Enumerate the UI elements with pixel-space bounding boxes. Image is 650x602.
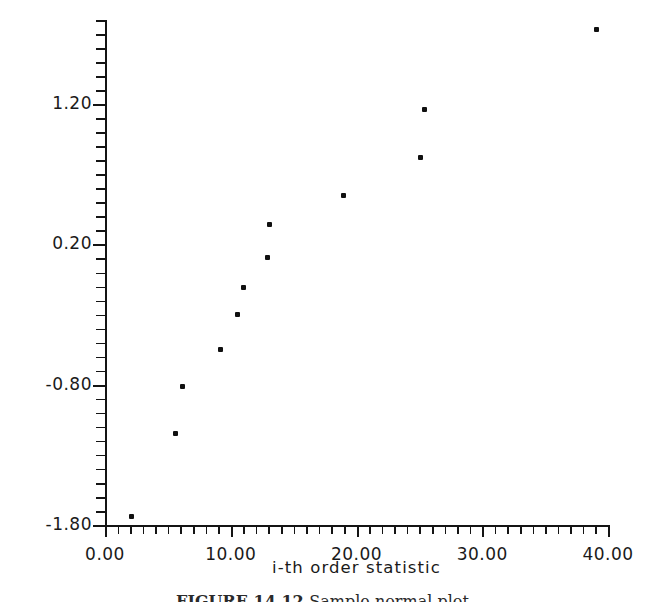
y-axis-tick-label: -0.80 xyxy=(6,374,92,394)
x-axis-minor-tick xyxy=(520,525,522,534)
x-axis-minor-tick xyxy=(168,525,170,534)
y-axis-minor-tick xyxy=(96,343,105,345)
figure-caption: FIGURE 14.12 Sample normal plot. xyxy=(0,592,650,602)
x-axis-minor-tick xyxy=(206,525,208,534)
x-axis-minor-tick xyxy=(495,525,497,534)
x-axis-major-tick xyxy=(482,525,484,537)
y-axis-minor-tick xyxy=(96,34,105,36)
scatter-point xyxy=(341,193,346,198)
scatter-point xyxy=(594,27,599,32)
y-axis-minor-tick xyxy=(96,511,105,513)
x-axis-minor-tick xyxy=(306,525,308,534)
x-axis-minor-tick xyxy=(281,525,283,534)
y-axis-minor-tick xyxy=(96,329,105,331)
y-axis-major-tick xyxy=(93,104,105,106)
y-axis-minor-tick xyxy=(96,160,105,162)
x-axis-minor-tick xyxy=(570,525,572,534)
x-axis-minor-tick xyxy=(193,525,195,534)
x-axis-minor-tick xyxy=(583,525,585,534)
y-axis-minor-tick xyxy=(96,399,105,401)
x-axis-minor-tick xyxy=(595,525,597,534)
y-axis-minor-tick xyxy=(96,132,105,134)
y-axis-tick-label: 0.20 xyxy=(6,233,92,253)
x-axis-minor-tick xyxy=(507,525,509,534)
y-axis-minor-tick xyxy=(96,427,105,429)
x-axis-minor-tick xyxy=(319,525,321,534)
y-axis-minor-tick xyxy=(96,287,105,289)
y-axis-minor-tick xyxy=(96,483,105,485)
y-axis-minor-tick xyxy=(96,216,105,218)
y-axis-minor-tick xyxy=(96,118,105,120)
y-axis-tick-label: -1.80 xyxy=(6,514,92,534)
y-axis-minor-tick xyxy=(96,174,105,176)
y-axis-minor-tick xyxy=(96,413,105,415)
y-axis-minor-tick xyxy=(96,258,105,260)
x-axis-minor-tick xyxy=(256,525,258,534)
x-axis-minor-tick xyxy=(118,525,120,534)
y-axis-minor-tick xyxy=(96,188,105,190)
x-axis-minor-tick xyxy=(407,525,409,534)
x-axis-minor-tick xyxy=(243,525,245,534)
scatter-point xyxy=(173,431,178,436)
y-axis-minor-tick xyxy=(96,441,105,443)
y-axis-minor-tick xyxy=(96,62,105,64)
x-axis-minor-tick xyxy=(533,525,535,534)
x-axis-minor-tick xyxy=(419,525,421,534)
figure-caption-text: Sample normal plot. xyxy=(309,592,474,602)
y-axis-minor-tick xyxy=(96,20,105,22)
x-axis-minor-tick xyxy=(130,525,132,534)
y-axis-minor-tick xyxy=(96,230,105,232)
y-axis-minor-tick xyxy=(96,146,105,148)
scatter-point xyxy=(129,514,134,519)
x-axis-minor-tick xyxy=(558,525,560,534)
figure-caption-label: FIGURE 14.12 xyxy=(176,592,304,602)
y-axis-major-tick xyxy=(93,385,105,387)
y-axis-minor-tick xyxy=(96,455,105,457)
x-axis-title: i-th order statistic xyxy=(105,558,608,577)
y-axis-minor-tick xyxy=(96,90,105,92)
x-axis-minor-tick xyxy=(180,525,182,534)
y-axis-minor-tick xyxy=(96,273,105,275)
scatter-point xyxy=(241,285,246,290)
x-axis-minor-tick xyxy=(143,525,145,534)
scatter-point xyxy=(418,155,423,160)
y-axis-title: Standard Normal Quantile xyxy=(4,0,30,26)
y-axis-minor-tick xyxy=(96,202,105,204)
y-axis-minor-tick xyxy=(96,48,105,50)
y-axis-minor-tick xyxy=(96,497,105,499)
x-axis-minor-tick xyxy=(155,525,157,534)
scatter-point xyxy=(235,312,240,317)
x-axis-minor-tick xyxy=(218,525,220,534)
x-axis-major-tick xyxy=(105,525,107,537)
x-axis-minor-tick xyxy=(394,525,396,534)
scatter-point xyxy=(267,222,272,227)
plot-area: 1.200.20-0.80-1.80 0.0010.0020.0030.0040… xyxy=(105,20,608,527)
x-axis-minor-tick xyxy=(331,525,333,534)
y-axis-minor-tick xyxy=(96,357,105,359)
y-axis-minor-tick xyxy=(96,76,105,78)
y-axis-minor-tick xyxy=(96,371,105,373)
y-axis-minor-tick xyxy=(96,469,105,471)
x-axis-minor-tick xyxy=(445,525,447,534)
y-axis-title-label: Standard Normal Quantile xyxy=(4,0,30,26)
y-axis-major-tick xyxy=(93,244,105,246)
scatter-point xyxy=(265,255,270,260)
x-axis-minor-tick xyxy=(344,525,346,534)
scatter-point xyxy=(180,384,185,389)
x-axis-minor-tick xyxy=(457,525,459,534)
x-axis-major-tick xyxy=(231,525,233,537)
x-axis-minor-tick xyxy=(268,525,270,534)
x-axis-minor-tick xyxy=(470,525,472,534)
x-axis-minor-tick xyxy=(432,525,434,534)
y-axis-major-tick xyxy=(93,525,105,527)
x-axis-minor-tick xyxy=(382,525,384,534)
y-axis-minor-tick xyxy=(96,301,105,303)
x-axis-minor-tick xyxy=(545,525,547,534)
x-axis-major-tick xyxy=(608,525,610,537)
y-axis-line xyxy=(105,20,107,527)
scatter-point xyxy=(218,347,223,352)
scatter-point xyxy=(422,107,427,112)
x-axis-minor-tick xyxy=(369,525,371,534)
y-axis-tick-label: 1.20 xyxy=(6,93,92,113)
x-axis-major-tick xyxy=(357,525,359,537)
